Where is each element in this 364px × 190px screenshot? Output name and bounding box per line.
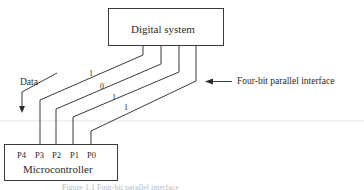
bit-value-p2: 0 (100, 83, 104, 91)
data-label: Data (20, 78, 38, 88)
wire-p2 (56, 46, 161, 144)
interface-arrow-head-icon (205, 79, 213, 85)
microcontroller-label: Microcontroller (23, 164, 93, 175)
wire-p0 (91, 46, 196, 144)
bit-value-p0: 1 (124, 104, 128, 112)
pin-label-p0: P0 (87, 151, 96, 160)
bit-value-p3: 1 (89, 70, 93, 78)
pin-label-p1: P1 (70, 151, 79, 160)
figure-caption: Figure 1.1 Four-bit parallel interface (62, 184, 179, 190)
pin-label-p3: P3 (35, 151, 44, 160)
digital-system-label: Digital system (131, 24, 195, 35)
wire-p3 (40, 46, 143, 144)
pin-label-p2: P2 (52, 151, 61, 160)
data-arrow-head-icon (19, 106, 25, 113)
interface-label: Four-bit parallel interface (237, 77, 334, 87)
pin-label-p4: P4 (17, 151, 26, 160)
bit-value-p1: 1 (112, 94, 116, 102)
